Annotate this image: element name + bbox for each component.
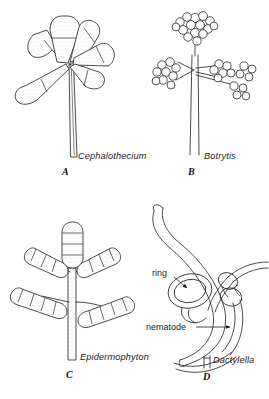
caption-epidermophyton: Epidermophyton: [80, 352, 149, 362]
figure-root: Cephalothecium A: [0, 0, 269, 399]
conidia-cluster: [152, 58, 180, 89]
nematode-body-edge: [153, 211, 214, 360]
macroconidium: [78, 297, 135, 328]
conidia-attachment-point: [69, 63, 71, 65]
conidium: [15, 64, 69, 104]
figure-canvas: Cephalothecium A: [0, 0, 269, 399]
panel-a-cephalothecium: Cephalothecium A: [15, 16, 147, 177]
macroconidium: [77, 248, 121, 278]
caption-cephalothecium: Cephalothecium: [78, 151, 147, 161]
nematode-body-edge: [162, 208, 225, 365]
annotation-ring-label: ring: [152, 268, 167, 278]
panel-b-botrytis: Botrytis B: [152, 12, 256, 177]
panel-c-epidermophyton: Epidermophyton C: [10, 222, 149, 380]
panel-letter-b: B: [187, 166, 195, 177]
macroconidium: [10, 288, 67, 319]
caption-dactylella: Dactylella: [213, 355, 254, 365]
panel-letter-a: A: [61, 166, 69, 177]
macroconidium: [62, 222, 83, 268]
caption-botrytis: Botrytis: [204, 151, 236, 161]
conidium: [70, 64, 104, 89]
annotation-nematode-label: nematode: [146, 322, 186, 332]
conidia-cluster: [210, 60, 235, 82]
conidiophore-stalk-c: [68, 268, 76, 360]
panel-d-dactylella: ring nematode Dactylella D: [146, 205, 268, 382]
panel-letter-c: C: [66, 369, 73, 380]
conidia-cluster: [172, 12, 218, 46]
panel-letter-d: D: [202, 371, 210, 382]
macroconidium: [24, 248, 68, 278]
conidia-cluster: [230, 82, 250, 100]
conidia-cluster: [236, 62, 256, 81]
